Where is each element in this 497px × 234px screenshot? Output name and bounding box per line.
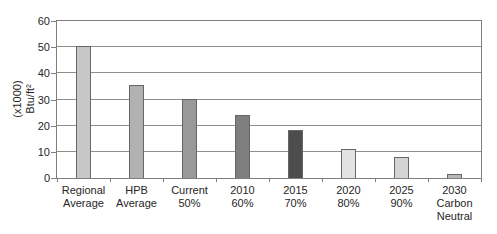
y-axis-title-line: (x1000) bbox=[11, 56, 24, 142]
x-tick-mark-6 bbox=[375, 178, 376, 182]
bar-2020-80- bbox=[341, 149, 356, 178]
x-axis-label-line: Regional bbox=[57, 184, 110, 197]
gridline-40 bbox=[57, 72, 481, 73]
x-axis-label-line: 2025 bbox=[375, 184, 428, 197]
x-axis-label-line: Carbon bbox=[428, 197, 481, 210]
x-tick-mark-2 bbox=[163, 178, 164, 182]
plot-area bbox=[56, 20, 482, 179]
x-tick-mark-5 bbox=[322, 178, 323, 182]
y-tick-label-40: 40 bbox=[24, 67, 50, 79]
x-axis-label-line: 2015 bbox=[269, 184, 322, 197]
bar-2010-60- bbox=[235, 115, 250, 178]
x-axis-label-2025-90-: 202590% bbox=[375, 184, 428, 210]
gridline-50 bbox=[57, 46, 481, 47]
x-axis-label-line: 50% bbox=[163, 197, 216, 210]
x-axis-label-2030-carbon-neutral: 2030CarbonNeutral bbox=[428, 184, 481, 223]
x-axis-label-line: 60% bbox=[216, 197, 269, 210]
y-tick-label-30: 30 bbox=[24, 94, 50, 106]
y-tick-label-60: 60 bbox=[24, 15, 50, 27]
x-axis-label-line: Average bbox=[110, 197, 163, 210]
x-axis-label-2015-70-: 201570% bbox=[269, 184, 322, 210]
x-axis-label-line: Average bbox=[57, 197, 110, 210]
bar-current-50- bbox=[182, 99, 197, 178]
x-axis-label-current-50-: Current50% bbox=[163, 184, 216, 210]
x-tick-mark-4 bbox=[269, 178, 270, 182]
x-axis-label-line: 90% bbox=[375, 197, 428, 210]
bar-2030-carbon-neutral bbox=[447, 174, 462, 178]
y-tick-label-10: 10 bbox=[24, 146, 50, 158]
x-axis-label-2010-60-: 201060% bbox=[216, 184, 269, 210]
y-tick-label-20: 20 bbox=[24, 120, 50, 132]
bar-2015-70- bbox=[288, 130, 303, 178]
gridline-20 bbox=[57, 125, 481, 126]
gridline-30 bbox=[57, 99, 481, 100]
x-axis-label-hpb-average: HPBAverage bbox=[110, 184, 163, 210]
x-axis-label-line: Neutral bbox=[428, 210, 481, 223]
x-axis-label-2020-80-: 202080% bbox=[322, 184, 375, 210]
x-tick-mark-1 bbox=[110, 178, 111, 182]
x-axis-label-regional-average: RegionalAverage bbox=[57, 184, 110, 210]
x-axis-label-line: 80% bbox=[322, 197, 375, 210]
x-tick-mark-0 bbox=[57, 178, 58, 182]
x-axis-label-line: Current bbox=[163, 184, 216, 197]
bar-2025-90- bbox=[394, 157, 409, 178]
x-tick-mark-7 bbox=[428, 178, 429, 182]
bar-chart: (x1000)Btu/ft² 0102030405060 RegionalAve… bbox=[0, 0, 497, 234]
x-axis-label-line: 2010 bbox=[216, 184, 269, 197]
bar-hpb-average bbox=[129, 85, 144, 178]
y-tick-label-50: 50 bbox=[24, 41, 50, 53]
y-tick-label-0: 0 bbox=[24, 172, 50, 184]
bar-regional-average bbox=[76, 46, 91, 178]
x-axis-label-line: 70% bbox=[269, 197, 322, 210]
gridline-10 bbox=[57, 151, 481, 152]
x-axis-label-line: 2030 bbox=[428, 184, 481, 197]
x-axis-label-line: 2020 bbox=[322, 184, 375, 197]
x-tick-mark-3 bbox=[216, 178, 217, 182]
x-tick-mark-8 bbox=[481, 178, 482, 182]
x-axis-label-line: HPB bbox=[110, 184, 163, 197]
